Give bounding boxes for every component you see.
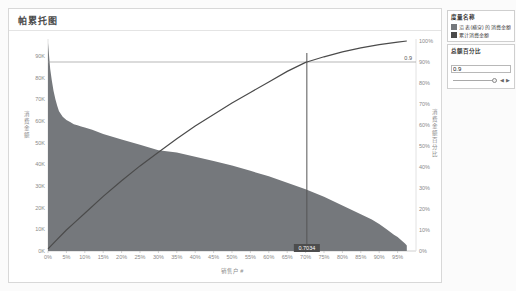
legend-item-bar-label: 沿 表(横穿) 的 消费金额 [459, 23, 511, 30]
y-right-tick-label: 60% [419, 122, 430, 128]
x-tick-label: 45% [208, 254, 219, 260]
y-left-tick-label: 80K [35, 75, 45, 81]
x-tick-label: 85% [355, 254, 366, 260]
x-tick-label: 65% [282, 254, 293, 260]
x-tick-label: 55% [245, 254, 256, 260]
y-left-tick-label: 10K [35, 226, 45, 232]
x-tick-label: 25% [134, 254, 145, 260]
y-right-tick-label: 90% [419, 59, 430, 65]
y-left-tick-label: 90K [35, 53, 45, 59]
parameter-slider-track[interactable] [453, 80, 497, 81]
x-tick-label: 70% [300, 254, 311, 260]
side-panel: 度量名称 沿 表(横穿) 的 消费金额 累计消费金额 总额百分比 ◀ ▶ [447, 10, 515, 89]
parameter-slider-handle[interactable] [492, 78, 497, 83]
y-left-tick-label: 60K [35, 118, 45, 124]
y-left-tick-label: 40K [35, 161, 45, 167]
x-tick-label: 80% [337, 254, 348, 260]
pareto-bars-area[interactable] [48, 43, 407, 251]
x-tick-label: 75% [318, 254, 329, 260]
y-right-tick-label: 30% [419, 185, 430, 191]
y-left-tick-label: 0K [38, 248, 45, 254]
x-tick-label: 15% [98, 254, 109, 260]
legend-swatch-bar-icon [451, 24, 457, 30]
y-right-tick-label: 40% [419, 164, 430, 170]
y-right-tick-label: 10% [419, 227, 430, 233]
y-left-tick-label: 20K [35, 205, 45, 211]
x-tick-label: 30% [153, 254, 164, 260]
chart-svg[interactable]: 0.90%5%10%15%20%25%30%35%40%45%50%55%60%… [9, 9, 441, 282]
legend-item-line-label: 累计消费金额 [459, 31, 511, 38]
x-axis-title: 销售户 # [48, 267, 416, 275]
parameter-card: 总额百分比 ◀ ▶ [447, 44, 515, 89]
legend-item-line[interactable]: 累计消费金额 [451, 31, 511, 38]
x-tick-label: 95% [392, 254, 403, 260]
x-tick-label: 20% [116, 254, 127, 260]
y-right-tick-label: 50% [419, 143, 430, 149]
ref-line-horizontal-label: 0.9 [404, 55, 412, 61]
y-right-tick-label: 100% [419, 38, 433, 44]
y-left-tick-label: 70K [35, 96, 45, 102]
y-left-axis-title: 消费金额 [23, 111, 31, 139]
slider-right-arrow-icon[interactable]: ▶ [505, 77, 511, 84]
parameter-title: 总额百分比 [451, 47, 511, 55]
legend-title: 度量名称 [451, 13, 511, 21]
x-tick-label: 0% [44, 254, 52, 260]
x-tick-label: 90% [374, 254, 385, 260]
x-tick-label: 10% [79, 254, 90, 260]
legend-item-bar[interactable]: 沿 表(横穿) 的 消费金额 [451, 23, 511, 30]
x-tick-label: 50% [226, 254, 237, 260]
legend-card: 度量名称 沿 表(横穿) 的 消费金额 累计消费金额 [447, 10, 515, 42]
ref-value-badge-label: 0.7034 [298, 245, 315, 251]
y-left-tick-label: 30K [35, 183, 45, 189]
y-right-tick-label: 20% [419, 206, 430, 212]
legend-swatch-line-icon [451, 32, 457, 38]
y-right-tick-label: 80% [419, 80, 430, 86]
x-tick-label: 60% [263, 254, 274, 260]
parameter-value-input[interactable] [451, 65, 511, 73]
y-right-axis-title: 消费金额百分比 [431, 109, 439, 158]
y-right-tick-label: 0% [419, 248, 427, 254]
chart-card: 帕累托图 0.90%5%10%15%20%25%30%35%40%45%50%5… [8, 8, 442, 283]
x-tick-label: 40% [190, 254, 201, 260]
x-tick-label: 5% [62, 254, 70, 260]
y-left-tick-label: 50K [35, 140, 45, 146]
y-right-tick-label: 70% [419, 101, 430, 107]
parameter-slider: ◀ ▶ [451, 76, 511, 85]
x-tick-label: 35% [171, 254, 182, 260]
